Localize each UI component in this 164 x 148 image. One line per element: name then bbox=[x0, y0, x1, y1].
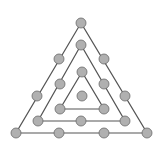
triangle-dot-diagram bbox=[0, 0, 164, 148]
dot bbox=[11, 128, 21, 138]
dot bbox=[120, 91, 130, 101]
dot bbox=[33, 116, 43, 126]
dot bbox=[77, 91, 87, 101]
dot bbox=[99, 104, 109, 114]
triangle-inner bbox=[60, 72, 104, 109]
dot bbox=[77, 67, 87, 77]
dot bbox=[76, 116, 86, 126]
dot bbox=[55, 79, 65, 89]
dot bbox=[76, 18, 86, 28]
dot bbox=[142, 128, 152, 138]
dot bbox=[99, 79, 109, 89]
dot bbox=[99, 54, 109, 64]
dot bbox=[76, 40, 86, 50]
dot bbox=[120, 116, 130, 126]
dot bbox=[32, 91, 42, 101]
dot bbox=[54, 128, 64, 138]
dot bbox=[54, 54, 64, 64]
dot bbox=[99, 128, 109, 138]
dot bbox=[55, 104, 65, 114]
